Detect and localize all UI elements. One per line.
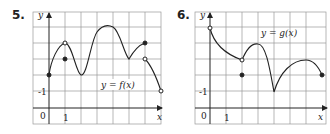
chart-5-xtick: 1: [63, 113, 69, 123]
chart-6-xtick: 1: [224, 113, 230, 123]
chart-5-label: y = f(x): [100, 80, 135, 90]
chart-5-grid: [33, 12, 161, 124]
chart-5-origin: 0: [40, 111, 46, 121]
chart-5-axes: [33, 13, 162, 124]
chart-6-origin: 0: [201, 111, 207, 121]
chart-6-ytick: -1: [199, 87, 208, 97]
chart-5-ytick: -1: [38, 87, 47, 97]
graphs: y x 0 1 -1 y = f(x) y x 0 1 -1 y = g(x): [0, 0, 330, 134]
chart-6-ylabel: y: [199, 10, 206, 20]
chart-6-xlabel: x: [318, 112, 323, 122]
chart-6-label: y = g(x): [260, 28, 298, 38]
chart-5-xlabel: x: [157, 112, 162, 122]
chart-5-ylabel: y: [37, 10, 44, 20]
